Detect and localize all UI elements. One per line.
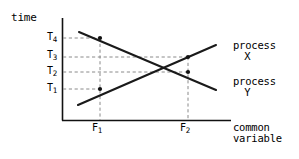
- series-label-process-y: processY: [233, 76, 276, 98]
- data-point-markers: [98, 36, 190, 91]
- chart-axes: [62, 18, 231, 121]
- y-tick-sub-t1: 1: [53, 86, 57, 95]
- x-axis-title: commonvariable: [233, 122, 282, 144]
- series-label-process-y-line1: process: [233, 75, 276, 87]
- x-axis-title-line2: variable: [233, 133, 282, 144]
- vertical-guide-lines: [100, 38, 188, 120]
- y-tick-label-t2: T2: [47, 66, 57, 78]
- y-tick-sub-t4: 4: [53, 35, 57, 44]
- series-label-process-x: processX: [233, 40, 276, 62]
- x-tick-sub-f1: 1: [98, 126, 102, 135]
- series-line-process-x: [78, 45, 216, 105]
- horizontal-guide-lines: [63, 38, 188, 89]
- y-tick-sub-t3: 3: [53, 53, 57, 62]
- x-tick-label-f2: F2: [180, 123, 190, 135]
- data-point-f2-t2: [186, 70, 190, 74]
- data-point-f2-t3: [186, 55, 190, 59]
- x-tick-sub-f2: 2: [186, 126, 190, 135]
- y-tick-label-t4: T4: [47, 32, 57, 44]
- series-label-process-x-line1: process: [233, 39, 276, 51]
- data-point-f1-t4: [98, 36, 102, 40]
- x-tick-label-f1: F1: [92, 123, 102, 135]
- y-tick-label-t1: T1: [47, 83, 57, 95]
- data-point-f1-t1: [98, 87, 102, 91]
- y-tick-sub-t2: 2: [53, 69, 57, 78]
- series-label-process-y-line2: Y: [233, 87, 276, 98]
- y-axis-title: time: [11, 12, 37, 24]
- series-label-process-x-line2: X: [233, 51, 276, 62]
- y-tick-label-t3: T3: [47, 50, 57, 62]
